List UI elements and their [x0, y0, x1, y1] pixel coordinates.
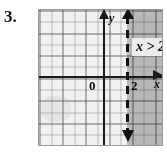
dashed-boundary-line — [126, 16, 129, 133]
inequality-callout-label: x > 2 — [132, 38, 163, 56]
tick-label-2: 2 — [131, 79, 138, 92]
x-axis-line — [39, 76, 162, 78]
x-axis-label: x — [154, 78, 160, 90]
y-axis-label: y — [109, 12, 114, 24]
scan-artifact — [41, 96, 71, 122]
y-axis-line — [103, 10, 105, 145]
boundary-arrow-down-icon — [122, 130, 134, 142]
coordinate-plane-graph: 0 2 y x x > 2 — [38, 9, 163, 146]
problem-number: 3. — [4, 8, 17, 25]
y-axis-arrow-icon — [99, 9, 109, 19]
origin-label: 0 — [89, 79, 96, 92]
boundary-arrow-up-icon — [122, 9, 134, 19]
